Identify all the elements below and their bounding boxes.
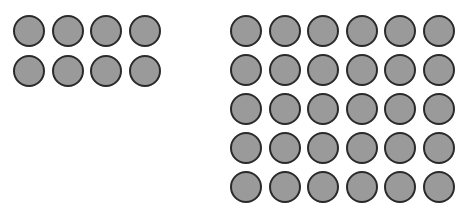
- circle: [423, 54, 455, 86]
- circle: [384, 93, 416, 125]
- circle: [13, 55, 45, 87]
- circle: [269, 171, 301, 203]
- circle: [307, 132, 339, 164]
- circle: [230, 93, 262, 125]
- circle: [384, 132, 416, 164]
- circle: [129, 15, 161, 47]
- circle: [230, 171, 262, 203]
- circle: [230, 54, 262, 86]
- circle: [384, 15, 416, 47]
- left-circle-array: [13, 15, 162, 88]
- circle: [346, 171, 378, 203]
- circle: [269, 54, 301, 86]
- circle: [307, 15, 339, 47]
- circle: [423, 93, 455, 125]
- circle: [307, 171, 339, 203]
- circle: [13, 15, 45, 47]
- right-circle-array: [230, 15, 456, 204]
- circle: [307, 93, 339, 125]
- circle: [384, 171, 416, 203]
- circle: [384, 54, 416, 86]
- circle: [423, 171, 455, 203]
- circle: [269, 15, 301, 47]
- circle: [230, 132, 262, 164]
- circle: [90, 55, 122, 87]
- circle: [423, 132, 455, 164]
- circle: [269, 93, 301, 125]
- circle: [230, 15, 262, 47]
- circle: [129, 55, 161, 87]
- circle: [346, 93, 378, 125]
- circle: [307, 54, 339, 86]
- circle: [346, 15, 378, 47]
- circle: [90, 15, 122, 47]
- circle: [423, 15, 455, 47]
- circle: [52, 15, 84, 47]
- circle: [52, 55, 84, 87]
- circle: [346, 54, 378, 86]
- circle: [346, 132, 378, 164]
- circle: [269, 132, 301, 164]
